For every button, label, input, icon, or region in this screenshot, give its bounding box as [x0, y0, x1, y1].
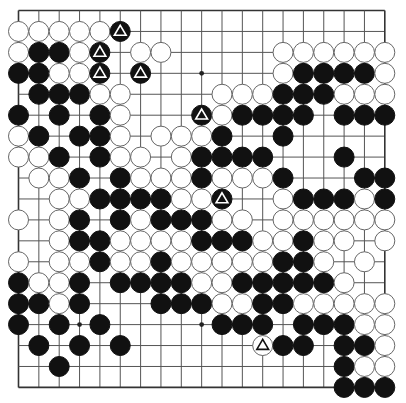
white-stone[interactable]: [110, 105, 130, 125]
white-stone[interactable]: [375, 231, 395, 251]
black-stone[interactable]: [131, 273, 151, 293]
white-stone[interactable]: [110, 126, 130, 146]
black-stone[interactable]: [354, 336, 374, 356]
white-stone[interactable]: [131, 42, 151, 62]
black-stone[interactable]: [354, 377, 374, 397]
white-stone[interactable]: [375, 210, 395, 230]
white-stone[interactable]: [70, 252, 90, 272]
black-stone[interactable]: [70, 273, 90, 293]
white-stone[interactable]: [375, 63, 395, 83]
black-stone[interactable]: [171, 210, 191, 230]
white-stone[interactable]: [354, 42, 374, 62]
white-stone[interactable]: [131, 231, 151, 251]
black-stone[interactable]: [354, 105, 374, 125]
black-stone[interactable]: [49, 84, 69, 104]
black-stone[interactable]: [70, 336, 90, 356]
white-stone[interactable]: [9, 42, 29, 62]
black-stone[interactable]: [293, 189, 313, 209]
black-stone[interactable]: [273, 105, 293, 125]
white-stone[interactable]: [293, 294, 313, 314]
white-stone[interactable]: [375, 294, 395, 314]
white-stone[interactable]: [212, 210, 232, 230]
black-stone[interactable]: [375, 189, 395, 209]
white-stone[interactable]: [375, 315, 395, 335]
white-stone[interactable]: [90, 21, 110, 41]
black-stone-marked[interactable]: [90, 63, 110, 83]
white-stone[interactable]: [253, 168, 273, 188]
black-stone[interactable]: [70, 168, 90, 188]
white-stone[interactable]: [354, 315, 374, 335]
black-stone[interactable]: [70, 126, 90, 146]
white-stone[interactable]: [314, 231, 334, 251]
white-stone[interactable]: [151, 231, 171, 251]
white-stone[interactable]: [151, 42, 171, 62]
black-stone[interactable]: [110, 273, 130, 293]
white-stone[interactable]: [192, 252, 212, 272]
white-stone[interactable]: [253, 84, 273, 104]
black-stone[interactable]: [29, 84, 49, 104]
black-stone[interactable]: [90, 189, 110, 209]
black-stone[interactable]: [334, 189, 354, 209]
black-stone[interactable]: [273, 126, 293, 146]
black-stone[interactable]: [90, 126, 110, 146]
black-stone[interactable]: [29, 336, 49, 356]
white-stone[interactable]: [171, 231, 191, 251]
white-stone[interactable]: [9, 210, 29, 230]
black-stone[interactable]: [293, 231, 313, 251]
white-stone[interactable]: [293, 42, 313, 62]
white-stone[interactable]: [212, 84, 232, 104]
black-stone[interactable]: [253, 273, 273, 293]
black-stone[interactable]: [375, 377, 395, 397]
black-stone[interactable]: [293, 105, 313, 125]
white-stone[interactable]: [192, 273, 212, 293]
white-stone[interactable]: [9, 147, 29, 167]
black-stone[interactable]: [151, 189, 171, 209]
black-stone[interactable]: [232, 231, 252, 251]
black-stone[interactable]: [293, 84, 313, 104]
black-stone[interactable]: [212, 147, 232, 167]
white-stone[interactable]: [293, 210, 313, 230]
black-stone[interactable]: [273, 252, 293, 272]
black-stone-marked[interactable]: [90, 42, 110, 62]
black-stone[interactable]: [9, 315, 29, 335]
white-stone[interactable]: [90, 84, 110, 104]
white-stone[interactable]: [314, 210, 334, 230]
black-stone[interactable]: [253, 147, 273, 167]
black-stone[interactable]: [70, 84, 90, 104]
black-stone[interactable]: [131, 189, 151, 209]
white-stone[interactable]: [110, 252, 130, 272]
white-stone[interactable]: [131, 210, 151, 230]
black-stone[interactable]: [151, 210, 171, 230]
white-stone[interactable]: [9, 252, 29, 272]
white-stone[interactable]: [334, 42, 354, 62]
black-stone[interactable]: [151, 252, 171, 272]
black-stone[interactable]: [293, 315, 313, 335]
white-stone[interactable]: [131, 168, 151, 188]
black-stone[interactable]: [314, 273, 334, 293]
black-stone[interactable]: [192, 147, 212, 167]
white-stone[interactable]: [375, 336, 395, 356]
white-stone[interactable]: [334, 273, 354, 293]
black-stone[interactable]: [70, 231, 90, 251]
white-stone[interactable]: [49, 294, 69, 314]
black-stone[interactable]: [192, 231, 212, 251]
black-stone[interactable]: [90, 105, 110, 125]
black-stone[interactable]: [334, 356, 354, 376]
black-stone[interactable]: [90, 252, 110, 272]
black-stone[interactable]: [192, 168, 212, 188]
black-stone[interactable]: [29, 126, 49, 146]
black-stone[interactable]: [49, 356, 69, 376]
white-stone[interactable]: [110, 231, 130, 251]
white-stone[interactable]: [232, 210, 252, 230]
white-stone[interactable]: [9, 126, 29, 146]
black-stone[interactable]: [70, 294, 90, 314]
white-stone[interactable]: [49, 63, 69, 83]
white-stone[interactable]: [29, 273, 49, 293]
black-stone[interactable]: [49, 105, 69, 125]
white-stone[interactable]: [151, 168, 171, 188]
black-stone[interactable]: [334, 315, 354, 335]
white-stone[interactable]: [49, 273, 69, 293]
white-stone[interactable]: [354, 252, 374, 272]
white-stone[interactable]: [232, 84, 252, 104]
white-stone[interactable]: [49, 189, 69, 209]
